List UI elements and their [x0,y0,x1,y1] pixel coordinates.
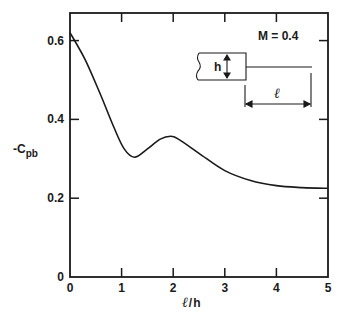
arrow-up-icon [224,55,230,60]
y-axis-label: -Cpb [13,142,38,159]
y-tick-label: 0 [57,270,64,284]
x-tick-label: 5 [325,281,332,295]
x-tick-label: 1 [118,281,125,295]
height-label: h [214,60,221,74]
length-label: ℓ [274,85,280,101]
y-tick-label: 0.2 [47,191,64,205]
tick-labels: 01234500.20.40.6 [47,34,331,295]
arrow-down-icon [224,73,230,78]
arrow-right-icon [304,101,310,107]
x-axis-label: ℓ/h [182,294,201,310]
x-tick-label: 2 [170,281,177,295]
arrow-left-icon [246,101,252,107]
x-tick-label: 3 [221,281,228,295]
wavy-break [197,53,201,80]
data-line [70,33,328,189]
y-tick-label: 0.4 [47,112,64,126]
chart: 01234500.20.40.6 -Cpb ℓ/h M = 0.4 h ℓ [0,0,343,319]
body-outline [198,53,246,80]
y-tick-label: 0.6 [47,34,64,48]
mach-annotation: M = 0.4 [258,29,299,43]
x-tick-label: 4 [273,281,280,295]
x-tick-label: 0 [67,281,74,295]
